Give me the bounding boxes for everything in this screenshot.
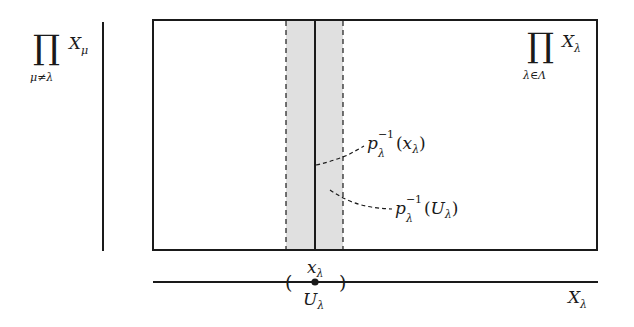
preimage-point-label: pλ−1(xλ) <box>367 133 426 153</box>
axis-x: X <box>568 287 580 307</box>
full-product-factor: Xλ <box>562 31 581 51</box>
factor-x: X <box>69 33 81 53</box>
u-sub: λ <box>317 299 324 312</box>
point-label: xλ <box>307 257 324 277</box>
paren: ( <box>396 133 403 153</box>
arg-sub: λ <box>445 208 452 221</box>
arg-sub: λ <box>412 143 419 156</box>
complement-product-index: μ≠λ <box>30 71 53 84</box>
x: x <box>307 257 317 277</box>
product-symbol: ∏ <box>33 27 60 67</box>
p-sub: λ <box>406 212 413 225</box>
complement-factor: Xμ <box>69 33 88 53</box>
paren: ( <box>424 198 431 218</box>
interval-left-paren: ( <box>285 271 292 293</box>
complement-product-label: ∏ <box>33 30 60 64</box>
p-sup: −1 <box>406 193 422 206</box>
axis-label: Xλ <box>568 287 587 307</box>
factor-x: X <box>562 31 574 51</box>
full-product-index: λ∈Λ <box>523 69 546 82</box>
u: U <box>303 289 317 309</box>
open-set-label: Uλ <box>303 289 324 309</box>
arg: U <box>431 198 445 218</box>
p-sub: λ <box>378 147 385 160</box>
product-symbol: ∏ <box>527 25 554 65</box>
paren: ) <box>419 133 426 153</box>
arg: x <box>403 133 413 153</box>
axis-sub: λ <box>580 298 587 311</box>
factor-sub: μ <box>81 44 88 57</box>
factor-sub: λ <box>574 42 581 55</box>
preimage-open-label: pλ−1(Uλ) <box>395 198 458 218</box>
p: p <box>367 133 378 153</box>
p: p <box>395 198 406 218</box>
interval-right-paren: ) <box>339 271 346 293</box>
x-sub: λ <box>317 267 324 280</box>
full-product-label: ∏ <box>527 28 554 62</box>
paren: ) <box>452 198 459 218</box>
p-sup: −1 <box>378 128 394 141</box>
